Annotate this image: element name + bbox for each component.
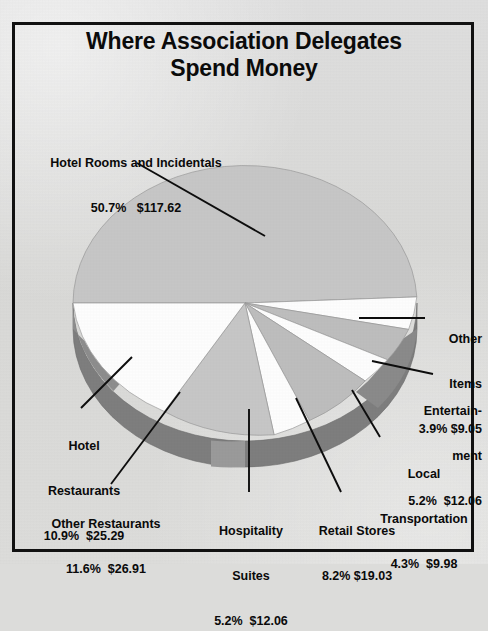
label-retail-stores-line-2: 8.2% $19.03 [296,569,418,584]
label-local-transportation-line-1: Local [366,467,482,482]
label-hospitality-suites-line-3: 5.2% $12.06 [196,614,306,629]
label-hotel-rooms-line-1: Hotel Rooms and Incidentals [22,156,250,171]
label-hotel-restaurants: Hotel Restaurants 10.9% $25.29 [14,409,154,574]
label-hotel-restaurants-line-3: 10.9% $25.29 [14,529,154,544]
label-other-items-line-1: Other [398,332,482,347]
label-entertainment-line-1: Entertain- [392,404,482,419]
label-retail-stores: Retail Stores 8.2% $19.03 [296,494,418,614]
label-hotel-rooms: Hotel Rooms and Incidentals 50.7% $117.6… [22,126,250,246]
label-retail-stores-line-1: Retail Stores [296,524,418,539]
label-hospitality-suites-line-1: Hospitality [196,524,306,539]
label-hotel-rooms-line-2: 50.7% $117.62 [22,201,250,216]
label-hotel-restaurants-line-2: Restaurants [14,484,154,499]
label-hotel-restaurants-line-1: Hotel [14,439,154,454]
label-hospitality-suites: Hospitality Suites 5.2% $12.06 [196,494,306,631]
label-hospitality-suites-line-2: Suites [196,569,306,584]
